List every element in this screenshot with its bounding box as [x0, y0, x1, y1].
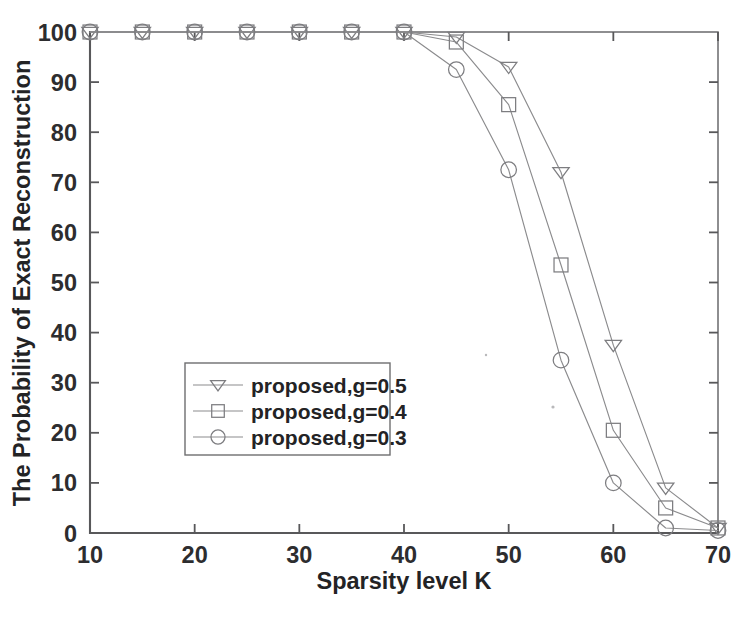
y-tick-label: 50: [51, 270, 77, 296]
y-tick-label: 40: [51, 320, 77, 346]
series-2: [83, 25, 725, 535]
y-tick-label: 20: [51, 420, 77, 446]
x-tick-label: 20: [182, 542, 208, 568]
y-tick-label: 60: [51, 220, 77, 246]
x-tick-label: 50: [496, 542, 522, 568]
x-tick-label: 10: [77, 542, 103, 568]
y-tick-label: 80: [51, 120, 77, 146]
legend-label: proposed,g=0.5: [251, 374, 407, 397]
series-1: [82, 27, 726, 534]
legend-label: proposed,g=0.4: [251, 400, 407, 423]
y-tick-label: 90: [51, 70, 77, 96]
legend-label: proposed,g=0.3: [251, 426, 407, 449]
chart-figure: 10203040506070 0102030405060708090100 Sp…: [0, 0, 748, 618]
x-tick-label: 70: [705, 542, 731, 568]
series-line: [90, 32, 718, 528]
x-tick-label: 30: [286, 542, 312, 568]
y-tick-label: 100: [38, 20, 77, 46]
y-tick-label: 0: [64, 521, 77, 547]
x-tick-label: 40: [391, 542, 417, 568]
scan-speck: [485, 354, 487, 356]
axis-ticks: [90, 32, 718, 533]
y-tick-labels: 0102030405060708090100: [38, 20, 77, 547]
y-tick-label: 70: [51, 170, 77, 196]
series-line: [90, 32, 718, 528]
x-tick-label: 60: [600, 542, 626, 568]
legend: proposed,g=0.5proposed,g=0.4proposed,g=0…: [185, 363, 407, 455]
plot-canvas: 10203040506070 0102030405060708090100 Sp…: [0, 0, 748, 618]
series-line: [90, 32, 718, 531]
x-tick-labels: 10203040506070: [77, 542, 731, 568]
scan-speck: [551, 405, 554, 408]
axes: [90, 32, 718, 533]
axis-frame-top-right: [90, 32, 718, 533]
y-tick-label: 10: [51, 470, 77, 496]
axis-frame-left-bottom: [90, 32, 718, 533]
data-series: [82, 24, 726, 538]
series-3: [82, 24, 726, 538]
x-axis-title: Sparsity level K: [316, 568, 491, 594]
y-tick-label: 30: [51, 370, 77, 396]
y-axis-title: The Probability of Exact Reconstruction: [9, 60, 35, 507]
